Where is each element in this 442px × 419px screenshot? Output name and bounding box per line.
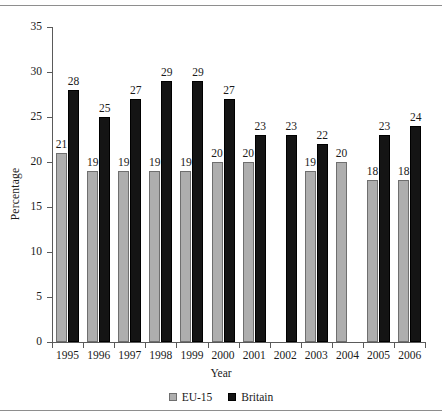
bar-britain-1999 xyxy=(192,81,203,342)
bar-value-label: 25 xyxy=(94,103,116,115)
bar-value-label: 23 xyxy=(374,121,396,133)
x-axis-label-2001: 2001 xyxy=(237,349,271,361)
bar-eu-15-1999 xyxy=(180,171,191,342)
bar-britain-1995 xyxy=(68,90,79,342)
bar-value-label: 24 xyxy=(405,112,427,124)
x-axis-label-2005: 2005 xyxy=(362,349,396,361)
bar-eu-15-1997 xyxy=(118,171,129,342)
x-axis-title: Year xyxy=(0,367,442,379)
bar-britain-1997 xyxy=(130,99,141,342)
bar-value-label: 23 xyxy=(280,121,302,133)
legend-item-eu-15[interactable]: EU-15 xyxy=(169,391,213,403)
bar-eu-15-1995 xyxy=(56,153,67,342)
bar-eu-15-2001 xyxy=(243,162,254,342)
bar-eu-15-1998 xyxy=(149,171,160,342)
bar-britain-2003 xyxy=(317,144,328,342)
bar-value-label: 27 xyxy=(125,85,147,97)
bar-britain-1998 xyxy=(161,81,172,342)
bar-britain-2006 xyxy=(410,126,421,342)
bar-value-label: 29 xyxy=(156,67,178,79)
grey-square-icon xyxy=(169,393,177,401)
x-axis-label-1999: 1999 xyxy=(175,349,209,361)
bar-value-label: 20 xyxy=(330,148,352,160)
bar-eu-15-1996 xyxy=(87,171,98,342)
bar-britain-2000 xyxy=(224,99,235,342)
bar-britain-1996 xyxy=(99,117,110,342)
bar-value-label: 27 xyxy=(218,85,240,97)
bar-eu-15-2005 xyxy=(367,180,378,342)
bar-value-label: 23 xyxy=(249,121,271,133)
black-square-icon xyxy=(228,393,236,401)
x-axis-label-1995: 1995 xyxy=(51,349,85,361)
x-axis-label-2003: 2003 xyxy=(299,349,333,361)
x-axis-label-1998: 1998 xyxy=(144,349,178,361)
bar-eu-15-2003 xyxy=(305,171,316,342)
x-axis-label-1996: 1996 xyxy=(82,349,116,361)
bar-eu-15-2000 xyxy=(212,162,223,342)
bar-eu-15-2004 xyxy=(336,162,347,342)
x-axis-label-2006: 2006 xyxy=(393,349,427,361)
legend-label: Britain xyxy=(241,391,273,403)
x-axis-label-2004: 2004 xyxy=(330,349,364,361)
y-axis-title: Percentage xyxy=(9,149,21,239)
legend-label: EU-15 xyxy=(182,391,213,403)
bar-value-label: 22 xyxy=(311,130,333,142)
bar-britain-2001 xyxy=(255,135,266,342)
x-axis-label-2002: 2002 xyxy=(268,349,302,361)
x-axis-label-2000: 2000 xyxy=(206,349,240,361)
bar-britain-2002 xyxy=(286,135,297,342)
bar-value-label: 28 xyxy=(63,76,85,88)
legend-item-britain[interactable]: Britain xyxy=(228,391,273,403)
bar-eu-15-2006 xyxy=(398,180,409,342)
bar-britain-2005 xyxy=(379,135,390,342)
bar-value-label: 29 xyxy=(187,67,209,79)
x-axis-label-1997: 1997 xyxy=(113,349,147,361)
chart-legend: EU-15Britain xyxy=(0,391,442,403)
